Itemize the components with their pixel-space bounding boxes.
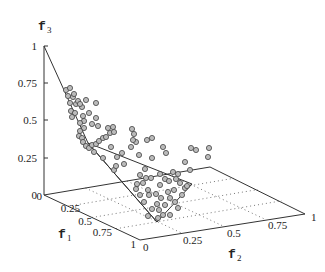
3d-scatter-chart: 1 0.75 0.5 0.25 0 0 0.25 0.5 0.75 1 0 0.…	[0, 0, 325, 272]
f3-axis-title: f	[38, 19, 46, 34]
data-point	[113, 163, 118, 168]
data-point	[111, 129, 116, 134]
f2-tick-1: 1	[311, 211, 317, 223]
data-point	[105, 125, 110, 130]
data-point	[108, 144, 113, 149]
z-tick-025: 0.25	[18, 152, 38, 164]
f1-tick-05: 0.5	[78, 215, 92, 227]
data-point	[67, 100, 72, 105]
data-point	[146, 192, 151, 197]
data-point	[65, 93, 70, 98]
data-point	[149, 155, 154, 160]
data-point	[206, 145, 211, 150]
data-point	[188, 145, 193, 150]
data-point	[136, 152, 141, 157]
f2-tick-025: 0.25	[183, 234, 203, 246]
f1-tick-025: 0.25	[61, 202, 81, 214]
data-point	[143, 175, 148, 180]
data-point	[140, 180, 145, 185]
data-point	[160, 144, 165, 149]
data-point	[163, 150, 168, 155]
data-point	[148, 175, 153, 180]
data-point	[95, 123, 100, 128]
data-point	[114, 154, 119, 159]
f2-axis-title: f	[228, 247, 236, 262]
data-point	[142, 166, 147, 171]
data-point	[86, 110, 91, 115]
f2-tick-05: 0.5	[227, 227, 241, 239]
data-point	[137, 172, 142, 177]
data-point	[173, 176, 178, 181]
data-point	[93, 100, 98, 105]
data-point	[193, 147, 198, 152]
z-tick-05: 0.5	[23, 114, 37, 126]
data-point	[91, 149, 96, 154]
data-point	[144, 137, 149, 142]
data-point	[175, 171, 180, 176]
data-point	[110, 124, 115, 129]
f1-axis-title: f	[58, 227, 66, 242]
z-tick-075: 0.75	[18, 77, 38, 89]
data-point	[77, 120, 82, 125]
data-point	[177, 180, 182, 185]
data-point	[175, 205, 180, 210]
data-point	[153, 191, 158, 196]
axis-titles: f 3 f 1 f 2	[38, 19, 242, 263]
data-point	[80, 113, 85, 118]
data-point	[157, 171, 162, 176]
data-point	[158, 195, 163, 200]
f1-tick-075: 0.75	[93, 226, 113, 238]
data-point	[77, 101, 82, 106]
data-point	[133, 186, 138, 191]
data-point	[172, 199, 177, 204]
data-point	[93, 115, 98, 120]
data-point	[171, 187, 176, 192]
data-point	[137, 192, 142, 197]
z-tick-1: 1	[32, 40, 38, 52]
data-point	[129, 126, 134, 131]
data-point	[170, 169, 175, 174]
data-point	[184, 183, 189, 188]
data-point	[89, 121, 94, 126]
f1-tick-0: 0	[37, 190, 43, 202]
f2-tick-075: 0.75	[268, 219, 288, 231]
data-point	[182, 159, 187, 164]
data-point	[103, 134, 108, 139]
data-point	[155, 215, 160, 220]
data-point	[100, 155, 105, 160]
data-point	[134, 181, 139, 186]
data-point	[165, 189, 170, 194]
f1-axis-subscript: 1	[67, 233, 72, 243]
data-point	[149, 206, 154, 211]
z-axis	[44, 46, 48, 195]
data-point	[145, 187, 150, 192]
data-point	[71, 91, 76, 96]
data-point	[67, 85, 72, 90]
data-point	[157, 182, 162, 187]
z-tick-labels: 1 0.75 0.5 0.25 0	[18, 40, 38, 201]
data-point	[160, 212, 165, 217]
data-point	[121, 161, 126, 166]
data-point	[187, 167, 192, 172]
data-point	[128, 144, 133, 149]
data-point	[167, 212, 172, 217]
f3-axis-subscript: 3	[47, 25, 52, 35]
data-point	[77, 128, 82, 133]
data-point	[141, 199, 146, 204]
data-point	[179, 192, 184, 197]
data-point	[205, 154, 210, 159]
data-point	[131, 131, 136, 136]
data-point	[83, 97, 88, 102]
f2-axis-subscript: 2	[237, 253, 242, 263]
data-point	[167, 195, 172, 200]
data-point	[69, 114, 74, 119]
data-point	[119, 150, 124, 155]
data-point	[149, 135, 154, 140]
data-point	[162, 202, 167, 207]
f2-tick-0: 0	[143, 241, 149, 253]
data-point	[156, 207, 161, 212]
data-point	[154, 201, 159, 206]
data-point	[130, 137, 135, 142]
f1-tick-1: 1	[131, 238, 137, 250]
data-point	[166, 178, 171, 183]
